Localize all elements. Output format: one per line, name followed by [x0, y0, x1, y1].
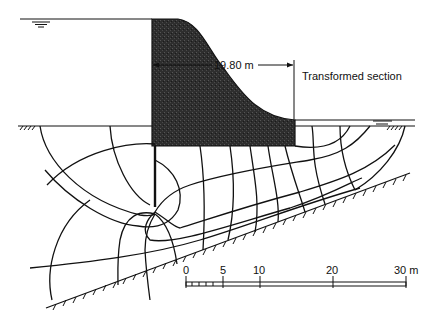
flow-net-diagram: 19.80 m Transformed section: [0, 0, 438, 310]
scale-tick-5: 5: [220, 264, 226, 276]
scale-bar: 0 5 10 20 30 m: [183, 264, 418, 288]
dimension-label: 19.80 m: [214, 59, 254, 71]
ground-hatch-icon: [20, 126, 35, 130]
scale-tick-10: 10: [253, 264, 265, 276]
water-table-icon: [32, 22, 50, 27]
downstream-water-level-icon: [373, 121, 392, 124]
scale-tick-20: 20: [326, 264, 338, 276]
upstream-water-surface: [20, 19, 152, 27]
scale-tick-0: 0: [183, 264, 189, 276]
section-label: Transformed section: [302, 70, 402, 82]
ground-hatch-icon: [387, 126, 402, 130]
dam-transformed-section: [152, 19, 295, 146]
scale-tick-30: 30 m: [394, 264, 418, 276]
impermeable-base: [46, 173, 410, 310]
